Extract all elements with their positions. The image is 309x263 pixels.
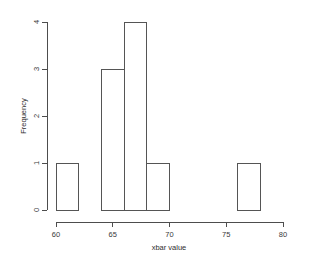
x-axis: 6065707580 <box>52 222 287 239</box>
histogram-bar <box>56 163 79 210</box>
histogram-bar <box>238 163 261 210</box>
x-axis-title: xbar value <box>152 243 187 252</box>
x-tick-label: 75 <box>222 230 230 239</box>
x-tick-label: 70 <box>165 230 173 239</box>
y-axis-ticks: 01234 <box>32 20 48 212</box>
x-axis-ticks: 6065707580 <box>52 222 287 239</box>
y-tick-label: 0 <box>32 208 41 212</box>
y-tick-label: 4 <box>32 20 41 24</box>
histogram-bar <box>101 69 124 210</box>
y-tick-label: 3 <box>32 67 41 71</box>
histogram-bar <box>124 22 147 210</box>
y-tick-label: 1 <box>32 161 41 165</box>
histogram-bar <box>147 163 170 210</box>
y-tick-label: 2 <box>32 114 41 118</box>
y-axis: 01234 <box>32 20 48 212</box>
x-tick-label: 80 <box>279 230 287 239</box>
x-tick-label: 65 <box>109 230 117 239</box>
bars-group <box>56 22 260 210</box>
histogram-plot: 6065707580 01234 xbar value Frequency <box>0 0 309 263</box>
x-tick-label: 60 <box>52 230 60 239</box>
histogram-canvas: 6065707580 01234 xbar value Frequency <box>0 0 309 263</box>
y-axis-title: Frequency <box>19 98 28 134</box>
